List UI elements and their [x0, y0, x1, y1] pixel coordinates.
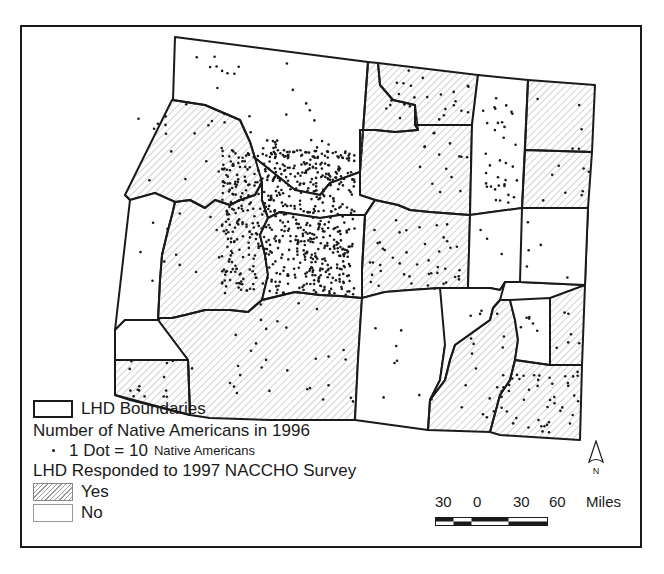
north-arrow-icon	[586, 440, 606, 464]
legend-boundary-label: LHD Boundaries	[81, 399, 206, 419]
boundary-swatch-icon	[33, 400, 73, 418]
legend-dot-value: 1 Dot = 10	[69, 441, 148, 461]
scale-unit: Miles	[586, 493, 621, 510]
scale-tick-label: 30	[513, 493, 530, 510]
blank-swatch-icon	[33, 504, 73, 522]
legend-no-label: No	[81, 503, 103, 523]
north-label: N	[586, 466, 606, 476]
legend-dot-title: Number of Native Americans in 1996	[33, 420, 356, 441]
north-arrow: N	[586, 440, 606, 476]
scale-tick-label: 60	[549, 493, 566, 510]
scale-bar-graphic	[435, 517, 550, 527]
lhd-region-responded	[525, 80, 595, 152]
legend-dot-unit: Native Americans	[154, 443, 255, 458]
scale-labels: 30 0 30 60 Miles	[435, 493, 550, 513]
scale-tick-label: 0	[473, 493, 481, 510]
legend-response-title: LHD Responded to 1997 NACCHO Survey	[33, 460, 356, 481]
legend-yes-row: Yes	[33, 481, 356, 502]
lhd-region-responded	[362, 200, 470, 298]
dot-symbol-icon	[52, 449, 55, 452]
scale-bar: 30 0 30 60 Miles	[435, 493, 550, 531]
legend-no-row: No	[33, 502, 356, 523]
legend-dot-row: 1 Dot = 10 Native Americans	[33, 441, 356, 460]
lhd-regions	[115, 37, 595, 440]
legend-boundary-row: LHD Boundaries	[33, 398, 356, 420]
legend-yes-label: Yes	[81, 482, 109, 502]
lhd-region-responded	[550, 285, 585, 365]
lhd-region-responded	[522, 150, 592, 208]
lhd-region-not-responded	[510, 298, 550, 365]
lhd-region-not-responded	[470, 75, 528, 215]
scale-tick-label: 30	[435, 493, 452, 510]
hatch-swatch-icon	[33, 483, 73, 501]
legend: LHD Boundaries Number of Native American…	[33, 398, 356, 523]
lhd-region-not-responded	[520, 208, 588, 285]
